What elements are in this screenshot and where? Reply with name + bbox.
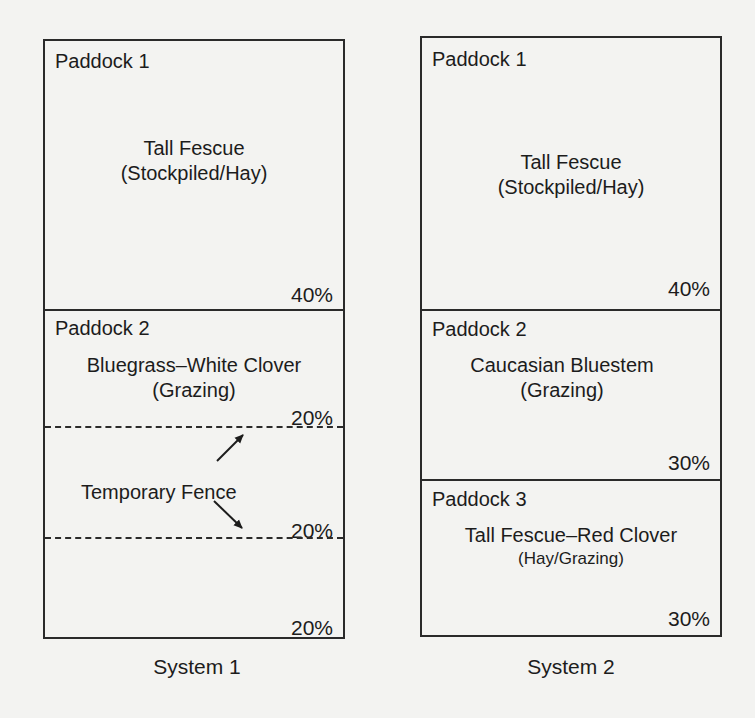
system-2-paddock-2: Paddock 2 Caucasian Bluestem (Grazing) 3…: [422, 309, 720, 479]
paddock-label: Paddock 2: [432, 319, 527, 339]
paddock-percent: 30%: [668, 608, 710, 629]
arrow-down-right-icon: [214, 501, 242, 528]
paddock-label: Paddock 3: [432, 489, 527, 509]
paddock-crop: Caucasian Bluestem (Grazing): [404, 353, 720, 403]
crop-name: Tall Fescue–Red Clover: [422, 523, 720, 548]
system-2-paddock-1: Paddock 1 Tall Fescue (Stockpiled/Hay) 4…: [422, 38, 720, 309]
crop-use: (Hay/Grazing): [422, 548, 720, 569]
paddock-crop: Tall Fescue–Red Clover (Hay/Grazing): [422, 523, 720, 569]
arrow-up-right-icon: [217, 435, 243, 461]
system-1-caption: System 1: [94, 656, 300, 677]
paddock-percent: 30%: [668, 452, 710, 473]
crop-use: (Stockpiled/Hay): [422, 175, 720, 200]
system-2-paddock-3: Paddock 3 Tall Fescue–Red Clover (Hay/Gr…: [422, 479, 720, 635]
paddock-crop: Tall Fescue (Stockpiled/Hay): [422, 150, 720, 200]
system-2-caption: System 2: [468, 656, 674, 677]
crop-name: Caucasian Bluestem: [404, 353, 720, 378]
crop-use: (Grazing): [404, 378, 720, 403]
paddock-percent: 40%: [668, 278, 710, 299]
system-2-layout: Paddock 1 Tall Fescue (Stockpiled/Hay) 4…: [420, 36, 722, 637]
paddock-label: Paddock 1: [432, 49, 527, 69]
crop-name: Tall Fescue: [422, 150, 720, 175]
